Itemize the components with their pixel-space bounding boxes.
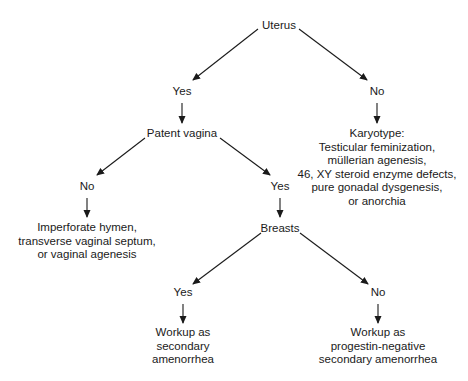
edge-patent-vagina-to-no	[97, 138, 145, 175]
edge-breasts-to-no	[300, 233, 368, 284]
branch-label-no: No	[371, 286, 386, 300]
branch-label-no: No	[80, 180, 95, 194]
karyotype-line: Karyotype:	[298, 127, 457, 141]
outflow-defects-line: transverse vaginal septum,	[18, 235, 155, 249]
node-outflow-defects: Imperforate hymen, transverse vaginal se…	[18, 221, 155, 262]
node-uterus-label: Uterus	[262, 19, 296, 33]
secondary-workup-line: Workup as	[152, 326, 214, 340]
amenorrhea-decision-tree: Uterus Yes No Patent vagina Karyotype: T…	[0, 0, 468, 381]
edge-breasts-to-yes	[193, 233, 261, 284]
branch-label-yes: Yes	[271, 180, 290, 194]
node-vagina-no: No	[80, 180, 95, 194]
karyotype-line: or anorchia	[298, 195, 457, 209]
outflow-defects-line: Imperforate hymen,	[18, 221, 155, 235]
edge-uterus-to-yes	[193, 29, 258, 80]
karyotype-line: 46, XY steroid enzyme defects,	[298, 168, 457, 182]
node-vagina-yes: Yes	[271, 180, 290, 194]
branch-label-no: No	[370, 85, 385, 99]
edge-uterus-to-no	[299, 29, 367, 80]
progestin-negative-workup-line: Workup as	[319, 326, 437, 340]
node-uterus-no: No	[370, 85, 385, 99]
secondary-workup-line: secondary	[152, 340, 214, 354]
karyotype-line: müllerian agenesis,	[298, 154, 457, 168]
secondary-workup-line: amenorrhea	[152, 353, 214, 367]
node-breasts-label: Breasts	[261, 222, 300, 236]
progestin-negative-workup-line: progestin-negative	[319, 340, 437, 354]
branch-label-yes: Yes	[173, 85, 192, 99]
node-patent-vagina-label: Patent vagina	[147, 127, 217, 141]
node-uterus: Uterus	[262, 19, 296, 33]
node-breasts-no: No	[371, 286, 386, 300]
node-breasts-yes: Yes	[174, 286, 193, 300]
node-secondary-workup: Workup as secondary amenorrhea	[152, 326, 214, 367]
node-karyotype: Karyotype: Testicular feminization, müll…	[298, 127, 457, 208]
node-progestin-negative-workup: Workup as progestin-negative secondary a…	[319, 326, 437, 367]
node-uterus-yes: Yes	[173, 85, 192, 99]
node-breasts: Breasts	[261, 222, 300, 236]
progestin-negative-workup-line: secondary amenorrhea	[319, 353, 437, 367]
karyotype-line: pure gonadal dysgenesis,	[298, 181, 457, 195]
branch-label-yes: Yes	[174, 286, 193, 300]
karyotype-line: Testicular feminization,	[298, 141, 457, 155]
edge-patent-vagina-to-yes	[220, 138, 270, 175]
node-patent-vagina: Patent vagina	[147, 127, 217, 141]
outflow-defects-line: or vaginal agenesis	[18, 248, 155, 262]
